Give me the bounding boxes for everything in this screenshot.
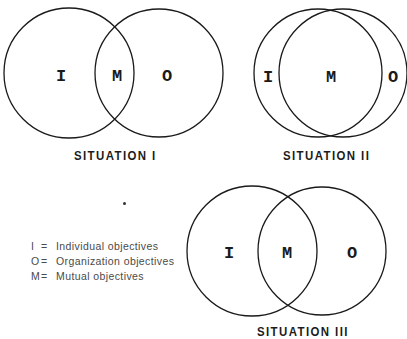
situation-2-letter-m: M	[326, 68, 336, 87]
situation-3-organization-circle	[258, 187, 386, 315]
situation-2-label: SITUATION II	[283, 148, 370, 163]
situation-1-label: SITUATION I	[74, 148, 157, 163]
legend: I=Individual objectives O=Organization o…	[31, 239, 174, 284]
situation-3-diagram: I M O	[187, 186, 386, 316]
legend-key: O	[31, 254, 41, 269]
situation-2-diagram: I M O	[254, 9, 407, 137]
situation-3-letter-i: I	[224, 244, 234, 263]
situation-3-label: SITUATION III	[257, 324, 349, 339]
situation-1-letter-m: M	[112, 67, 122, 86]
legend-description: Organization objectives	[56, 255, 174, 267]
situation-2-letter-i: I	[263, 68, 273, 87]
legend-row-mutual: M=Mutual objectives	[31, 269, 174, 284]
situation-2-letter-o: O	[388, 68, 398, 87]
legend-row-individual: I=Individual objectives	[31, 239, 174, 254]
legend-description: Individual objectives	[56, 240, 158, 252]
legend-key: M	[31, 269, 41, 284]
situation-2-individual-circle	[254, 9, 382, 137]
situation-3-letter-m: M	[282, 244, 292, 263]
situation-3-individual-circle	[187, 186, 317, 316]
situation-1-letter-o: O	[162, 67, 172, 86]
situation-1-letter-i: I	[56, 67, 66, 86]
legend-row-organization: O=Organization objectives	[31, 254, 174, 269]
legend-equals: =	[41, 254, 56, 269]
situation-3-letter-o: O	[347, 244, 357, 263]
legend-equals: =	[41, 269, 56, 284]
legend-description: Mutual objectives	[56, 270, 144, 282]
legend-key: I	[31, 239, 41, 254]
situation-1-diagram: I M O	[4, 8, 223, 138]
scan-speck	[123, 202, 126, 205]
legend-equals: =	[41, 239, 56, 254]
